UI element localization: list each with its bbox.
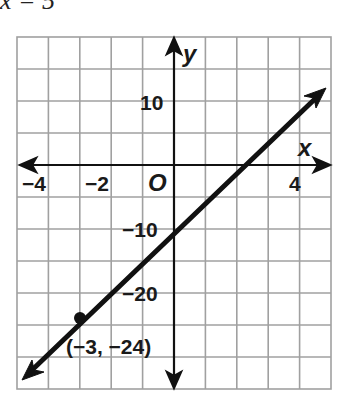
y-axis-label: y: [182, 40, 198, 67]
x-tick-minus-4: −4: [22, 172, 46, 195]
origin-label: O: [148, 169, 167, 196]
coordinate-plane: x y −4 −2 O 4 10 −10 −20 (−3, −24): [0, 0, 348, 402]
point-label: (−3, −24): [66, 335, 151, 358]
x-tick-4: 4: [289, 172, 301, 195]
y-tick-minus-10: −10: [122, 218, 158, 241]
x-tick-minus-2: −2: [85, 172, 109, 195]
point-marker: [74, 312, 86, 324]
y-tick-minus-20: −20: [122, 282, 158, 305]
y-tick-10: 10: [140, 91, 163, 114]
y-axis: [167, 38, 181, 388]
x-axis-label: x: [296, 134, 313, 161]
